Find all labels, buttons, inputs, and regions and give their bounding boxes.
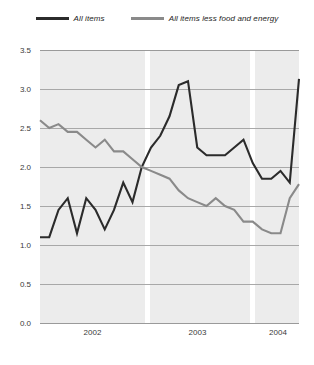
y-tick-2-0: 2.0 [20, 163, 31, 172]
series-line-all-items [40, 79, 299, 237]
x-tick-2003: 2003 [189, 328, 207, 337]
gridline-0 [40, 323, 299, 324]
x-axis-tick-labels: 2002 2003 2004 [40, 328, 299, 348]
y-tick-0-5: 0.5 [20, 280, 31, 289]
y-tick-1-5: 1.5 [20, 202, 31, 211]
y-tick-2-5: 2.5 [20, 124, 31, 133]
y-tick-3-5: 3.5 [20, 46, 31, 55]
y-axis-tick-labels: 3.5 3.0 2.5 2.0 1.5 1.0 0.5 0.0 [0, 50, 36, 323]
series-lines [40, 50, 299, 323]
y-tick-0-0: 0.0 [20, 319, 31, 328]
legend-entry-all-items: All items [36, 14, 105, 23]
x-tick-2002: 2002 [84, 328, 102, 337]
y-tick-1-0: 1.0 [20, 241, 31, 250]
chart-legend: All items All items less food and energy [0, 14, 314, 23]
legend-swatch-core [131, 17, 164, 20]
y-tick-3-0: 3.0 [20, 85, 31, 94]
legend-label-all-items: All items [74, 14, 105, 23]
chart-container: All items All items less food and energy… [0, 0, 314, 365]
plot-area [40, 50, 299, 323]
legend-swatch-all-items [36, 17, 69, 20]
legend-label-core: All items less food and energy [169, 14, 279, 23]
legend-entry-core: All items less food and energy [131, 14, 279, 23]
x-tick-2004: 2004 [269, 328, 287, 337]
